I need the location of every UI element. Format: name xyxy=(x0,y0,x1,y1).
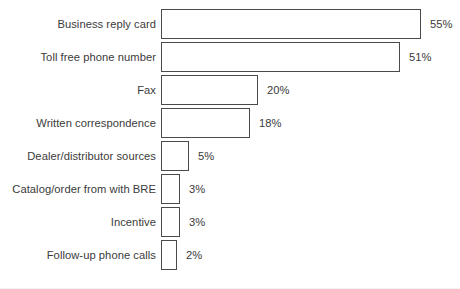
category-label: Incentive xyxy=(0,216,156,229)
chart-row: Business reply card 55% xyxy=(0,9,460,39)
value-label: 51% xyxy=(409,51,431,64)
bar-area: 20% xyxy=(156,75,460,105)
value-label: 18% xyxy=(259,117,281,130)
chart-row: Incentive 3% xyxy=(0,207,460,237)
value-label: 3% xyxy=(189,216,205,229)
category-label: Dealer/distributor sources xyxy=(0,150,156,163)
bar-area: 51% xyxy=(156,42,460,72)
bar xyxy=(161,240,177,270)
bar-area: 3% xyxy=(156,207,460,237)
chart-row: Fax 20% xyxy=(0,75,460,105)
value-label: 3% xyxy=(189,183,205,196)
bar-area: 3% xyxy=(156,174,460,204)
bar xyxy=(161,174,180,204)
chart-row: Catalog/order from with BRE 3% xyxy=(0,174,460,204)
category-label: Fax xyxy=(0,84,156,97)
bar-area: 55% xyxy=(156,9,460,39)
bar-area: 18% xyxy=(156,108,460,138)
chart-rows: Business reply card 55% Toll free phone … xyxy=(0,9,460,273)
chart-row: Toll free phone number 51% xyxy=(0,42,460,72)
bar-area: 2% xyxy=(156,240,460,270)
bar xyxy=(161,141,189,171)
bar xyxy=(161,75,258,105)
value-label: 55% xyxy=(430,18,452,31)
value-label: 20% xyxy=(267,84,289,97)
value-label: 5% xyxy=(198,150,214,163)
category-label: Business reply card xyxy=(0,18,156,31)
category-label: Toll free phone number xyxy=(0,51,156,64)
bar xyxy=(161,207,180,237)
bar xyxy=(161,108,250,138)
bar-area: 5% xyxy=(156,141,460,171)
category-label: Catalog/order from with BRE xyxy=(0,183,156,196)
chart-row: Dealer/distributor sources 5% xyxy=(0,141,460,171)
bar xyxy=(161,42,400,72)
value-label: 2% xyxy=(186,249,202,262)
bar xyxy=(161,9,421,39)
category-label: Follow-up phone calls xyxy=(0,249,156,262)
chart-row: Follow-up phone calls 2% xyxy=(0,240,460,270)
horizontal-bar-chart: Business reply card 55% Toll free phone … xyxy=(0,0,460,289)
chart-row: Written correspondence 18% xyxy=(0,108,460,138)
category-label: Written correspondence xyxy=(0,117,156,130)
